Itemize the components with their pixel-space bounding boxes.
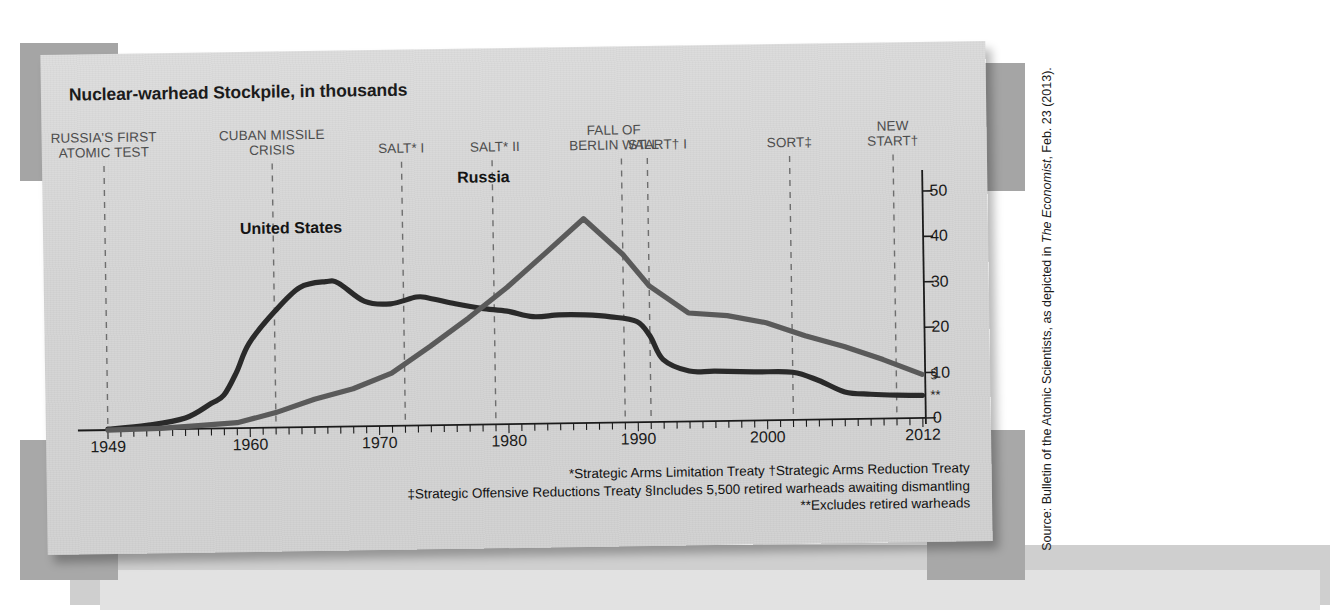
- series-label-russia: Russia: [457, 168, 510, 187]
- x-tick-label-1960: 1960: [233, 436, 269, 455]
- data-series: [105, 214, 923, 430]
- footnotes: *Strategic Arms Limitation Treaty †Strat…: [250, 459, 971, 522]
- y-tick-label-0: 0: [933, 409, 942, 427]
- x-tick-label-2012: 2012: [905, 426, 941, 445]
- y-tick-label-30: 30: [931, 272, 949, 290]
- x-tick-label-1970: 1970: [362, 434, 398, 453]
- source-prefix: Source: Bulletin of the Atomic Scientist…: [1040, 243, 1054, 551]
- y-tick-label-50: 50: [929, 182, 947, 200]
- source-suffix: , Feb. 23 (2013).: [1040, 67, 1054, 159]
- x-tick-label-1980: 1980: [491, 432, 527, 451]
- x-tick-label-2000: 2000: [750, 428, 786, 447]
- x-tick-label-1990: 1990: [621, 430, 657, 449]
- series-label-united-states: United States: [240, 219, 343, 239]
- page-shadow-band-inner: [100, 570, 1320, 610]
- chart-sheet: Nuclear-warhead Stockpile, in thousands …: [40, 41, 992, 555]
- x-tick-label-1949: 1949: [90, 438, 126, 457]
- end-marker-russia: §: [930, 367, 937, 382]
- y-tick-label-20: 20: [931, 318, 949, 336]
- y-tick-label-40: 40: [930, 227, 948, 245]
- end-marker-united-states: **: [930, 388, 940, 403]
- chart-figure: Nuclear-warhead Stockpile, in thousands …: [40, 41, 992, 555]
- source-credit: Source: Bulletin of the Atomic Scientist…: [1040, 67, 1054, 551]
- source-publication: The Economist: [1040, 160, 1054, 243]
- axes: [74, 170, 936, 440]
